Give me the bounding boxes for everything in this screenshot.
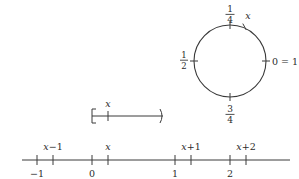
circle-label-quarter: 1 4 xyxy=(226,4,235,25)
label-suffix-x-minus-1: −1 xyxy=(49,141,63,152)
integer-tick-group: −1 0 1 2 xyxy=(30,155,233,179)
label-base-x: x xyxy=(105,141,111,152)
circle-group-diagram: 1 4 x 1 2 3 4 0 = 1 xyxy=(180,4,298,125)
half-open-interval: x xyxy=(92,98,163,123)
circle-outline xyxy=(194,25,266,97)
math-figure: 1 4 x 1 2 3 4 0 = 1 xyxy=(0,0,299,179)
translate-tick-group: x−1 x x+1 x+2 xyxy=(43,141,255,165)
label-suffix-x-plus-1: +1 xyxy=(187,141,201,152)
number-line-label-0: 0 xyxy=(89,168,95,179)
circle-label-three-quarter-denominator: 4 xyxy=(227,115,233,125)
figure-canvas: 1 4 x 1 2 3 4 0 = 1 xyxy=(0,0,299,179)
number-line-label-2: 2 xyxy=(227,168,233,179)
circle-label-quarter-numerator: 1 xyxy=(227,4,233,14)
number-line-label-neg1: −1 xyxy=(30,168,44,179)
number-line-label-1: 1 xyxy=(172,168,178,179)
circle-label-quarter-denominator: 4 xyxy=(227,15,233,25)
circle-label-three-quarter-numerator: 3 xyxy=(227,104,233,114)
circle-label-three-quarter: 3 4 xyxy=(226,104,235,125)
number-line-label-x-minus-1: x−1 xyxy=(43,141,62,152)
number-line-label-x-plus-1: x+1 xyxy=(181,141,200,152)
circle-label-half-numerator: 1 xyxy=(181,50,186,60)
number-line-label-x: x xyxy=(105,141,111,152)
number-line-label-x-plus-2: x+2 xyxy=(236,141,255,152)
circle-label-half-denominator: 2 xyxy=(181,61,186,71)
circle-label-zero-equals-one: 0 = 1 xyxy=(272,56,298,67)
label-suffix-x-plus-2: +2 xyxy=(242,141,256,152)
circle-label-point-x: x xyxy=(245,10,251,21)
circle-tick-point-x xyxy=(243,24,247,30)
real-number-line: −1 0 1 2 x−1 x x+1 xyxy=(22,141,290,179)
interval-label-x: x xyxy=(105,98,111,109)
circle-label-half: 1 2 xyxy=(180,50,188,71)
